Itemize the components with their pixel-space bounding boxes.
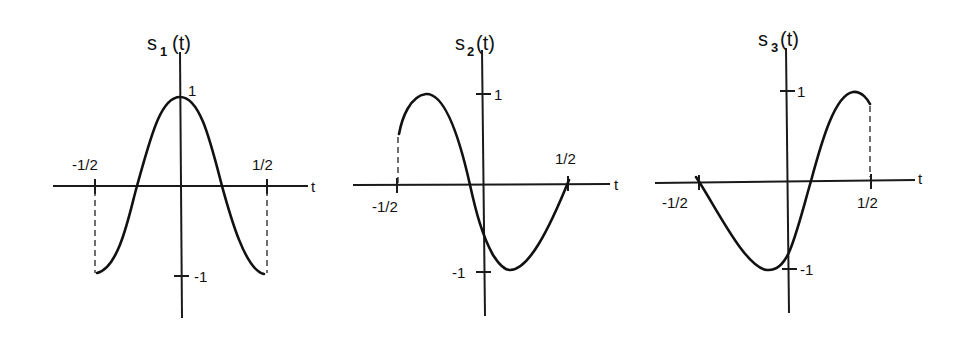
- plot-s2-tick-label-neg-half: -1/2: [372, 198, 398, 215]
- plot-s1-xlabel: t: [311, 178, 316, 195]
- plot-s3-title-arg: (t): [780, 28, 799, 50]
- plot-s3-xlabel: t: [918, 170, 923, 187]
- plot-s1-title-arg: (t): [172, 32, 191, 54]
- plot-s3-tick-label-pos-half: 1/2: [857, 194, 878, 211]
- plot-s1: s 1 (t) t -1/2 1/2 1 -1: [53, 32, 316, 318]
- plot-s2-ytick-label-neg1: -1: [452, 264, 465, 281]
- plot-s2-title-sub: 2: [467, 44, 474, 59]
- plot-s2-title-arg: (t): [476, 32, 495, 54]
- plot-s3-tick-label-neg-half: -1/2: [662, 194, 688, 211]
- plot-s3: s 3 (t) t -1/2 1/2 1 -1: [655, 28, 923, 313]
- plot-s2-tick-label-pos-half: 1/2: [555, 150, 576, 167]
- plot-s1-ytick-label-neg1: -1: [194, 268, 207, 285]
- plot-s3-x-axis: [655, 180, 915, 183]
- plot-s1-tick-label-pos-half: 1/2: [252, 156, 273, 173]
- plot-s3-title-sub: 3: [771, 40, 778, 55]
- plot-s3-title-main: s: [758, 28, 768, 50]
- plot-s2-title-main: s: [455, 32, 465, 54]
- plot-s1-tick-label-neg-half: -1/2: [72, 156, 98, 173]
- plot-s1-ytick-label-1: 1: [188, 82, 196, 99]
- plot-s2-xlabel: t: [614, 176, 619, 193]
- plot-s2: s 2 (t) t -1/2 1/2 1 -1: [353, 32, 619, 316]
- plot-s3-ytick-label-neg1: -1: [800, 261, 813, 278]
- plot-s1-title-sub: 1: [160, 44, 167, 59]
- plot-s3-ytick-label-1: 1: [797, 83, 805, 100]
- plot-s2-ytick-label-1: 1: [494, 86, 502, 103]
- plot-s2-y-axis: [482, 50, 485, 316]
- signal-plots: s 1 (t) t -1/2 1/2 1 -1 s 2 (t) t -1/2 1…: [0, 0, 970, 337]
- plot-s2-x-axis: [353, 184, 610, 185]
- plot-s1-title-main: s: [147, 32, 157, 54]
